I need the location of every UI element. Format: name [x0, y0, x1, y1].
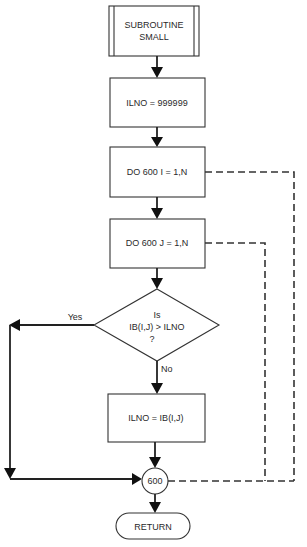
assign-label: ILNO = IB(I,J)	[128, 413, 183, 423]
end-node: RETURN	[116, 513, 190, 539]
loop-i-label: DO 600 I = 1,N	[127, 167, 187, 177]
arrow-down-icon	[149, 502, 161, 513]
connector-node: 600	[142, 468, 168, 494]
start-label-line1: SUBROUTINE	[124, 20, 183, 30]
arrow-down-icon	[151, 383, 163, 394]
decision-label-line2: IB(I,J) > ILNO	[129, 322, 184, 332]
connector-label: 600	[147, 476, 162, 486]
arrow-down-icon	[151, 278, 163, 289]
init-label: ILNO = 999999	[126, 98, 187, 108]
assign-node: ILNO = IB(I,J)	[108, 394, 205, 442]
start-node: SUBROUTINE SMALL	[109, 6, 199, 56]
end-label: RETURN	[134, 522, 172, 532]
arrow-down-icon	[151, 208, 163, 219]
no-label: No	[161, 364, 173, 374]
loop-j-node: DO 600 J = 1,N	[110, 219, 205, 268]
init-node: ILNO = 999999	[110, 78, 205, 127]
decision-node: Is IB(I,J) > ILNO ?	[94, 289, 219, 361]
arrow-down-icon	[151, 137, 163, 147]
yes-label: Yes	[68, 312, 83, 322]
loop-j-label: DO 600 J = 1,N	[126, 238, 188, 248]
arrow-right-icon	[132, 473, 142, 485]
flowchart: SUBROUTINE SMALL ILNO = 999999 DO 600 I …	[0, 0, 307, 547]
arrow-down-icon	[4, 468, 16, 479]
decision-label-line3: ?	[149, 334, 154, 344]
start-label-line2: SMALL	[139, 32, 169, 42]
decision-label-line1: Is	[153, 310, 161, 320]
loop-j-dashed-return	[205, 243, 265, 481]
loop-i-node: DO 600 I = 1,N	[110, 147, 205, 197]
arrow-down-icon	[149, 457, 161, 468]
arrow-down-icon	[151, 67, 163, 78]
loop-i-dashed-return	[205, 172, 294, 481]
